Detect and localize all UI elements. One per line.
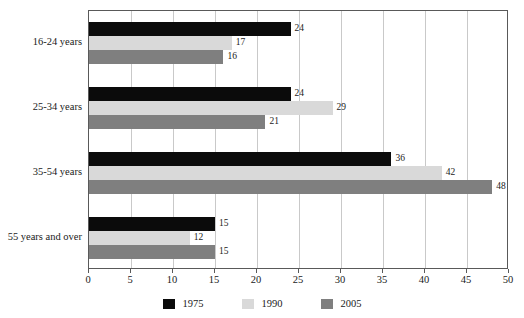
x-tick-label: 35 [377,275,388,286]
x-tick-mark [214,269,215,273]
x-tick-mark [466,269,467,273]
category-axis-labels: 16-24 years25-34 years35-54 years55 year… [0,10,524,269]
legend-swatch-icon [163,299,175,309]
x-axis: 05101520253035404550 [88,269,508,291]
legend-swatch-icon [321,299,333,309]
x-tick-label: 45 [461,275,472,286]
x-tick-mark [340,269,341,273]
x-tick-mark [424,269,425,273]
legend-label: 1990 [262,299,283,310]
x-tick-label: 30 [335,275,346,286]
x-tick-mark [382,269,383,273]
x-tick-mark [88,269,89,273]
x-tick-label: 50 [503,275,514,286]
x-tick-label: 40 [419,275,430,286]
category-label: 16-24 years [0,37,82,48]
legend-label: 2005 [341,299,362,310]
legend-item[interactable]: 2005 [321,299,362,310]
category-label: 55 years and over [0,231,82,242]
legend-item[interactable]: 1975 [163,299,204,310]
category-label: 25-34 years [0,102,82,113]
x-tick-label: 25 [293,275,304,286]
x-tick-mark [130,269,131,273]
x-tick-mark [256,269,257,273]
legend-item[interactable]: 1990 [242,299,283,310]
x-tick-label: 10 [167,275,178,286]
chart-legend: 197519902005 [0,294,524,314]
x-tick-label: 15 [209,275,220,286]
x-tick-label: 0 [85,275,90,286]
x-tick-label: 5 [127,275,132,286]
category-label: 35-54 years [0,167,82,178]
legend-swatch-icon [242,299,254,309]
legend-label: 1975 [183,299,204,310]
bar-chart: 241716242921364248151215 16-24 years25-3… [0,0,524,318]
x-tick-label: 20 [251,275,262,286]
x-tick-mark [172,269,173,273]
x-tick-mark [508,269,509,273]
x-tick-mark [298,269,299,273]
